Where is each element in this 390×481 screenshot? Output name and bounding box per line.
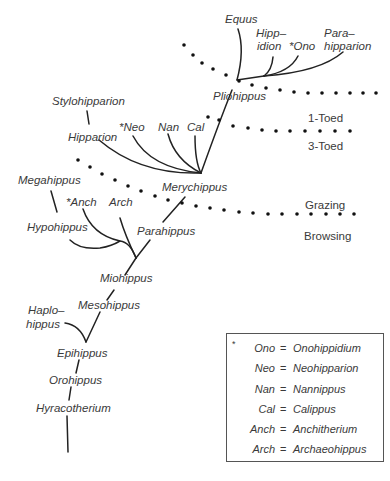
legend-equals: = — [280, 399, 286, 419]
legend-full-name: Archaeohippus — [293, 439, 366, 459]
legend-abbr: Arch — [252, 439, 275, 459]
label-hipparion: Hipparion — [68, 131, 117, 143]
label-mesohippus: Mesohippus — [78, 299, 140, 311]
branch-equus — [237, 29, 241, 80]
branch-anch — [83, 209, 136, 258]
label-stylohipparion: Stylohipparion — [52, 95, 125, 107]
legend-row-anch: Anch = Anchitherium — [227, 419, 383, 439]
abbreviation-legend: * Ono = Onohippidium Neo = Neohipparion … — [226, 333, 384, 462]
branch-hypohippus — [70, 240, 120, 248]
branch-epihippus-orohippus — [76, 360, 79, 373]
label-neo: *Neo — [119, 121, 145, 133]
label-cal: Cal — [187, 121, 205, 133]
label-nan: Nan — [158, 121, 179, 133]
label-haplohippus-1: Haplo– — [28, 304, 65, 316]
legend-equals: = — [280, 358, 286, 378]
branch-megahippus-hypohippus — [51, 191, 57, 212]
label-parahippus: Parahippus — [137, 225, 195, 237]
legend-abbr: Ono — [254, 338, 275, 358]
branch-parahippus-merychippus — [163, 197, 185, 222]
legend-abbr: Nan — [255, 379, 275, 399]
label-ono: *Ono — [289, 40, 316, 52]
label-equus: Equus — [225, 13, 258, 25]
legend-abbr: Cal — [258, 399, 275, 419]
toe-division-line — [182, 43, 378, 133]
label-1-toed: 1-Toed — [308, 112, 343, 124]
label-hippidion-1: Hipp– — [256, 27, 287, 39]
legend-full-name: Onohippidium — [293, 338, 361, 358]
legend-star: * — [232, 334, 236, 354]
label-hyracotherium: Hyracotherium — [36, 402, 111, 414]
legend-row-cal: Cal = Calippus — [227, 399, 383, 419]
label-merychippus: Merychippus — [162, 181, 227, 193]
legend-abbr: Neo — [255, 358, 275, 378]
label-parahipparion-2: hipparion — [324, 40, 371, 52]
legend-abbr: Anch — [250, 419, 275, 439]
division-labels: 1-Toed 3-Toed Grazing Browsing — [304, 112, 351, 242]
legend-equals: = — [280, 338, 286, 358]
label-browsing: Browsing — [304, 230, 351, 242]
label-epihippus: Epihippus — [57, 347, 108, 359]
legend-row-nan: Nan = Nannippus — [227, 379, 383, 399]
branch-orohippus-hyracotherium — [69, 387, 71, 400]
legend-row-neo: Neo = Neohipparion — [227, 358, 383, 378]
branch-hyracotherium-base — [67, 416, 68, 452]
branch-pliohippus-node — [237, 76, 264, 80]
legend-full-name: Anchitherium — [293, 419, 357, 439]
label-grazing: Grazing — [305, 199, 345, 211]
label-arch: Arch — [108, 196, 133, 208]
legend-row-ono: * Ono = Onohippidium — [227, 338, 383, 358]
label-hippidion-2: idion — [257, 40, 281, 52]
branch-merychippus-pliohippus — [201, 90, 232, 173]
label-miohippus: Miohippus — [100, 272, 153, 284]
branch-mesohippus-epihippus — [86, 312, 100, 342]
label-hypohippus: Hypohippus — [27, 221, 88, 233]
branch-miohippus-parahippus — [136, 240, 150, 258]
legend-equals: = — [280, 419, 286, 439]
legend-full-name: Neohipparion — [293, 358, 358, 378]
branch-stylohipparion-hipparion — [87, 111, 89, 124]
legend-equals: = — [280, 379, 286, 399]
branch-cal — [195, 136, 201, 173]
label-megahippus: Megahippus — [18, 174, 81, 186]
branch-hippidion — [264, 57, 273, 76]
branch-parahipparion — [264, 52, 343, 76]
label-parahipparion-1: Para– — [324, 27, 355, 39]
legend-full-name: Nannippus — [293, 379, 346, 399]
label-pliohippus: Pliohippus — [213, 90, 266, 102]
legend-equals: = — [280, 439, 286, 459]
label-haplohippus-2: hippus — [26, 318, 60, 330]
legend-full-name: Calippus — [293, 399, 336, 419]
label-orohippus: Orohippus — [49, 374, 102, 386]
legend-row-arch: Arch = Archaeohippus — [227, 439, 383, 459]
label-3-toed: 3-Toed — [308, 140, 343, 152]
branch-haplohippus — [65, 323, 86, 342]
label-anch: *Anch — [66, 196, 97, 208]
